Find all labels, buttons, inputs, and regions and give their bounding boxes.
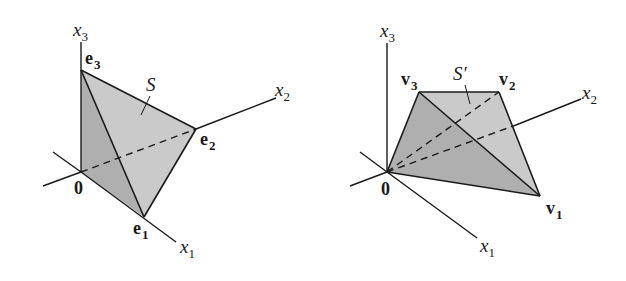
x1-axis-back — [53, 152, 81, 172]
left-figure: x3 x2 x1 S 0 e3 e2 e1 — [43, 19, 290, 261]
x2-axis-label: x2 — [274, 79, 290, 104]
x3-axis-label: x3 — [379, 20, 395, 45]
x2-axis — [196, 98, 276, 129]
vertex-v3-label: v3 — [401, 69, 418, 93]
right-figure: x3 x2 x1 S′ 0 v3 v2 v1 — [350, 20, 597, 260]
origin-label: 0 — [74, 178, 83, 198]
vertex-v1-label: v1 — [546, 198, 563, 222]
vertex-e1-label: e1 — [133, 218, 149, 242]
x2-axis — [516, 99, 581, 125]
vertex-e3-label: e3 — [85, 48, 101, 72]
x3-axis-label: x3 — [72, 19, 88, 44]
x1-axis-back — [360, 152, 387, 172]
x1-axis-label: x1 — [479, 235, 495, 260]
origin-label: 0 — [381, 179, 390, 199]
region-label: S — [146, 74, 156, 95]
region-label: S′ — [453, 63, 468, 84]
diagram-canvas: x3 x2 x1 S 0 e3 e2 e1 x3 x2 x — [0, 0, 626, 281]
vertex-e2-label: e2 — [200, 129, 216, 153]
x2-axis-label: x2 — [581, 82, 597, 107]
x1-axis-label: x1 — [179, 236, 195, 261]
vertex-v2-label: v2 — [499, 69, 516, 93]
